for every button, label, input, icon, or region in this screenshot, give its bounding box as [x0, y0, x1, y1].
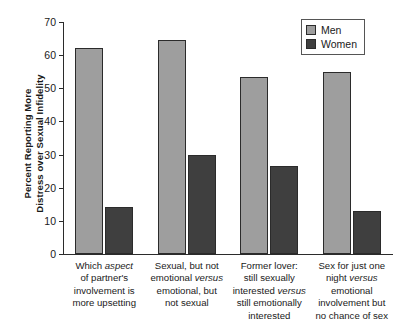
- category-label-text: interested: [233, 285, 278, 296]
- bar-chart-figure: Percent Reporting MoreDistress over Sexu…: [0, 0, 410, 336]
- category-label-text: Sex for just one: [318, 260, 385, 271]
- category-label-text: more upsetting: [73, 297, 136, 308]
- category-label-line: Sex for just one: [304, 260, 400, 272]
- y-axis-tick-mark: [59, 22, 64, 23]
- category-label-line: involvement but: [304, 297, 400, 309]
- y-axis-tick-mark: [59, 254, 64, 255]
- category-label-text: not sexual: [165, 297, 209, 308]
- category-label-text: Former lover:: [241, 260, 298, 271]
- bar-men-group-2: [158, 40, 186, 254]
- category-label-text: involvement but: [318, 297, 385, 308]
- y-axis-tick-label: 60: [44, 50, 56, 61]
- y-axis-tick-mark: [59, 221, 64, 222]
- x-axis-category-label-4: Sex for just onenight versusemotionalinv…: [304, 260, 400, 322]
- x-axis-line: [63, 254, 393, 255]
- y-axis-tick-mark: [59, 55, 64, 56]
- y-axis-title: Percent Reporting MoreDistress over Sexu…: [22, 19, 45, 269]
- category-label-text: of partner's: [80, 272, 128, 283]
- y-axis-tick-mark: [59, 88, 64, 89]
- category-label-emphasis: versus: [349, 272, 377, 283]
- category-label-line: no chance of sex: [304, 310, 400, 322]
- y-axis-tick-label: 40: [44, 116, 56, 127]
- y-axis-tick-mark: [59, 188, 64, 189]
- y-axis-tick-label: 0: [50, 249, 56, 260]
- legend-item-men: Men: [306, 23, 357, 37]
- chart-legend: MenWomen: [301, 19, 365, 55]
- category-label-line: emotional: [304, 285, 400, 297]
- legend-label: Women: [321, 38, 357, 50]
- y-axis-tick-label: 50: [44, 83, 56, 94]
- category-label-text: emotional, but: [157, 285, 217, 296]
- y-axis-title-line: Distress over Sexual Infidelity: [33, 19, 45, 269]
- y-axis-title-line: Percent Reporting More: [22, 19, 34, 269]
- y-axis-line: [63, 22, 64, 254]
- legend-swatch-women: [306, 39, 316, 49]
- category-label-text: still emotionally: [237, 297, 302, 308]
- category-label-emphasis: versus: [195, 272, 223, 283]
- legend-label: Men: [321, 24, 341, 36]
- legend-swatch-men: [306, 25, 316, 35]
- category-label-text: night: [326, 272, 349, 283]
- y-axis-tick-label: 30: [44, 149, 56, 160]
- legend-item-women: Women: [306, 37, 357, 51]
- y-axis-tick-mark: [59, 155, 64, 156]
- bar-men-group-3: [240, 77, 268, 254]
- y-axis-tick-label: 10: [44, 215, 56, 226]
- y-axis-tick-label: 70: [44, 17, 56, 28]
- bar-men-group-1: [75, 48, 103, 254]
- category-label-text: emotional: [331, 285, 373, 296]
- category-label-emphasis: aspect: [105, 260, 133, 271]
- category-label-text: no chance of sex: [315, 310, 388, 321]
- category-label-text: emotional: [150, 272, 194, 283]
- category-label-line: night versus: [304, 272, 400, 284]
- bar-women-group-1: [105, 207, 133, 254]
- bar-women-group-2: [188, 155, 216, 254]
- category-label-text: Sexual, but not: [155, 260, 219, 271]
- category-label-text: still sexually: [244, 272, 295, 283]
- category-label-text: involvement is: [74, 285, 135, 296]
- bar-women-group-3: [270, 166, 298, 254]
- y-axis-tick-mark: [59, 121, 64, 122]
- bar-men-group-4: [323, 72, 351, 254]
- category-label-text: interested: [248, 310, 290, 321]
- y-axis-tick-label: 20: [44, 182, 56, 193]
- category-label-text: Which: [75, 260, 104, 271]
- bar-women-group-4: [353, 211, 381, 254]
- category-label-emphasis: versus: [278, 285, 306, 296]
- plot-area: 010203040506070: [63, 22, 393, 254]
